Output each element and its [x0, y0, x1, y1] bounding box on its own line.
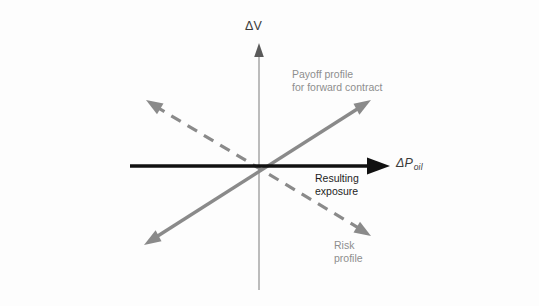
y-axis-label: ΔV: [245, 18, 262, 34]
origin-marker: [258, 165, 260, 167]
x-axis-label-base-text: ΔP: [396, 156, 413, 170]
payoff-risk-profile-diagram: [0, 0, 539, 306]
resulting-exposure-annotation: Resultingexposure: [315, 172, 359, 199]
payoff-profile-annotation-line2: for forward contract: [292, 81, 382, 93]
figure-background: [0, 0, 539, 306]
x-axis-label-subscript-text: oil: [414, 162, 423, 172]
y-axis-label-text: ΔV: [245, 19, 262, 33]
payoff-profile-annotation: Payoff profilefor forward contract: [292, 68, 382, 95]
payoff-profile-annotation-line1: Payoff profile: [292, 68, 353, 80]
figure-container: ΔV ΔPoil Payoff profilefor forward contr…: [0, 0, 539, 306]
risk-profile-annotation-line2: profile: [334, 252, 363, 264]
resulting-exposure-annotation-line1: Resulting: [315, 172, 359, 184]
risk-profile-annotation: Riskprofile: [334, 239, 363, 266]
x-axis-label: ΔPoil: [396, 155, 422, 171]
risk-profile-annotation-line1: Risk: [334, 239, 354, 251]
resulting-exposure-annotation-line2: exposure: [315, 185, 358, 197]
